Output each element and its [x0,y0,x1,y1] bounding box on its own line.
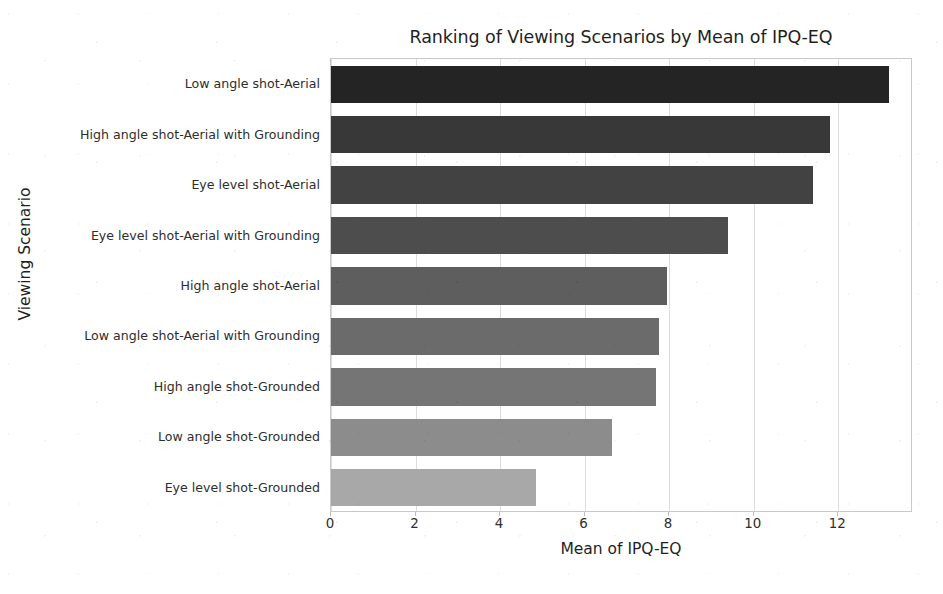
y-tick-label: High angle shot-Aerial [181,278,320,293]
x-tick-label: 6 [579,516,588,531]
x-tick-label: 4 [495,516,504,531]
y-tick-label: Low angle shot-Aerial [185,76,320,91]
y-tick-label: High angle shot-Aerial with Grounding [80,126,320,141]
y-tick-label: Eye level shot-Aerial with Grounding [91,227,320,242]
x-axis-title: Mean of IPQ-EQ [330,540,912,558]
bars-layer [331,59,911,511]
bar[interactable] [331,217,728,254]
bar-row [331,217,911,254]
bar-row [331,267,911,304]
bar-row [331,166,911,203]
plot-area [330,58,912,512]
y-tick-label: Eye level shot-Grounded [165,479,320,494]
y-tick-label: Low angle shot-Aerial with Grounding [84,328,320,343]
bar-row [331,116,911,153]
y-axis-tick-labels: Low angle shot-AerialHigh angle shot-Aer… [0,58,320,512]
y-tick-label: Low angle shot-Grounded [158,429,320,444]
x-tick-label: 12 [829,516,846,531]
bar[interactable] [331,116,830,153]
y-tick-label: High angle shot-Grounded [154,378,320,393]
bar-row [331,469,911,506]
chart-figure: Ranking of Viewing Scenarios by Mean of … [0,0,943,594]
bar[interactable] [331,368,656,405]
bar-row [331,66,911,103]
bar[interactable] [331,419,612,456]
bar[interactable] [331,166,813,203]
bar-row [331,318,911,355]
bar[interactable] [331,267,667,304]
x-tick-label: 10 [744,516,761,531]
bar[interactable] [331,66,889,103]
x-axis-tick-labels: 024681012 [330,516,912,538]
bar[interactable] [331,318,659,355]
bar-row [331,368,911,405]
y-tick-label: Eye level shot-Aerial [191,177,320,192]
x-tick-label: 2 [410,516,419,531]
chart-title: Ranking of Viewing Scenarios by Mean of … [330,27,912,47]
x-tick-label: 8 [664,516,673,531]
x-tick-label: 0 [326,516,335,531]
bar-row [331,419,911,456]
bar[interactable] [331,469,536,506]
